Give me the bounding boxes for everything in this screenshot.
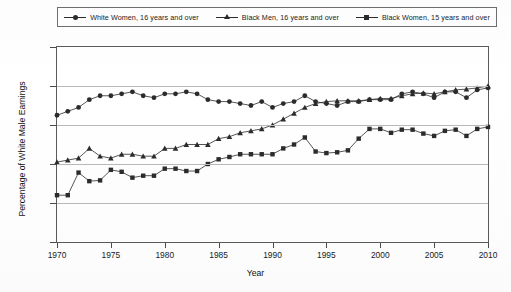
x-tick-label: 2005 [425, 250, 444, 260]
data-point [130, 175, 134, 179]
data-point [205, 97, 210, 102]
data-point [108, 93, 113, 98]
data-point [357, 136, 361, 140]
x-tick-mark [111, 243, 112, 248]
data-point [119, 91, 124, 96]
x-tick-label: 2000 [371, 250, 390, 260]
data-point [389, 131, 393, 135]
data-point [195, 91, 200, 96]
data-point [227, 155, 231, 159]
legend-entry-black-women: Black Women, 15 years and over [356, 12, 490, 22]
plot-inner [57, 47, 488, 242]
data-point [400, 127, 404, 131]
data-point [141, 174, 145, 178]
legend-label-white-women: White Women, 16 years and over [90, 13, 199, 22]
x-tick-mark [219, 243, 220, 248]
gridline [57, 164, 488, 165]
data-point [367, 127, 371, 131]
gridline [57, 86, 488, 87]
data-point [97, 153, 103, 158]
data-point [216, 99, 221, 104]
data-point [346, 148, 350, 152]
legend-entry-black-men: Black Men, 16 years and over [216, 12, 339, 22]
data-point [443, 129, 447, 133]
chart-page: White Women, 16 years and over Black Men… [0, 0, 511, 292]
data-point [475, 127, 479, 131]
legend-marker-square-icon [356, 12, 378, 22]
x-tick-mark [434, 243, 435, 248]
x-tick-label: 1990 [263, 250, 282, 260]
x-tick-label: 1980 [155, 250, 174, 260]
data-point [184, 89, 189, 94]
x-tick-mark [326, 243, 327, 248]
data-point [76, 170, 80, 174]
x-tick-mark [488, 243, 489, 248]
data-point [216, 157, 220, 161]
legend-label-black-men: Black Men, 16 years and over [242, 13, 339, 22]
y-tick-mark [50, 47, 56, 48]
data-point [227, 99, 232, 104]
x-tick-label: 1995 [317, 250, 336, 260]
data-point [249, 152, 253, 156]
data-point [281, 146, 285, 150]
data-point [195, 169, 199, 173]
series-1 [55, 86, 491, 118]
data-point [227, 134, 233, 139]
data-point [152, 95, 157, 100]
data-point [270, 105, 275, 110]
data-point [335, 150, 339, 154]
data-point [162, 91, 167, 96]
data-point [302, 93, 307, 98]
data-point [453, 127, 457, 131]
legend-entry-white-women: White Women, 16 years and over [64, 12, 199, 22]
x-tick-label: 1970 [48, 250, 67, 260]
data-point [87, 146, 93, 151]
plot-area [56, 46, 489, 243]
data-point [98, 93, 103, 98]
data-point [292, 99, 297, 104]
x-tick-mark [380, 243, 381, 248]
y-tick-mark [50, 242, 56, 243]
data-point [87, 179, 91, 183]
y-tick-mark [50, 203, 56, 204]
data-point [238, 101, 243, 106]
data-point [281, 101, 286, 106]
data-point [432, 134, 436, 138]
data-point [66, 193, 70, 197]
data-point [292, 142, 296, 146]
data-point [280, 116, 286, 121]
data-point [259, 99, 264, 104]
series-3 [55, 125, 490, 198]
legend-marker-circle-icon [64, 12, 86, 22]
data-point [410, 127, 414, 131]
data-point [65, 109, 70, 114]
gridline [57, 203, 488, 204]
data-point [238, 152, 242, 156]
data-point [55, 193, 59, 197]
data-point [173, 166, 177, 170]
legend-marker-triangle-icon [216, 12, 238, 22]
data-point [87, 97, 92, 102]
data-point [270, 152, 274, 156]
data-point [421, 131, 425, 135]
data-point [313, 149, 317, 153]
data-point [98, 178, 102, 182]
chart-legend: White Women, 16 years and over Black Men… [57, 7, 497, 27]
legend-label-black-women: Black Women, 15 years and over [382, 13, 490, 22]
x-tick-mark [57, 243, 58, 248]
data-point [55, 113, 60, 118]
data-point [464, 95, 469, 100]
data-point [259, 126, 265, 131]
x-tick-label: 1985 [209, 250, 228, 260]
data-point [324, 151, 328, 155]
data-point [464, 134, 468, 138]
data-point [76, 105, 81, 110]
data-point [184, 169, 188, 173]
x-axis-title: Year [0, 268, 511, 278]
data-point [335, 103, 340, 108]
data-point [291, 111, 297, 116]
x-tick-label: 1975 [102, 250, 121, 260]
data-point [163, 166, 167, 170]
data-point [260, 152, 264, 156]
y-tick-mark [50, 125, 56, 126]
